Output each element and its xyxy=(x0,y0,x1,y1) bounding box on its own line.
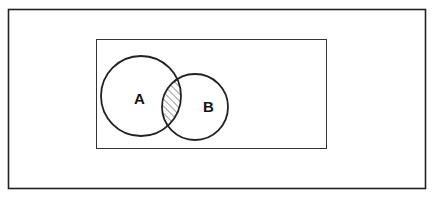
venn-diagram: A B xyxy=(0,0,435,197)
set-a-label: A xyxy=(134,90,145,107)
set-b-label: B xyxy=(203,98,214,115)
universe-rectangle xyxy=(97,40,327,149)
outer-frame xyxy=(9,10,426,189)
